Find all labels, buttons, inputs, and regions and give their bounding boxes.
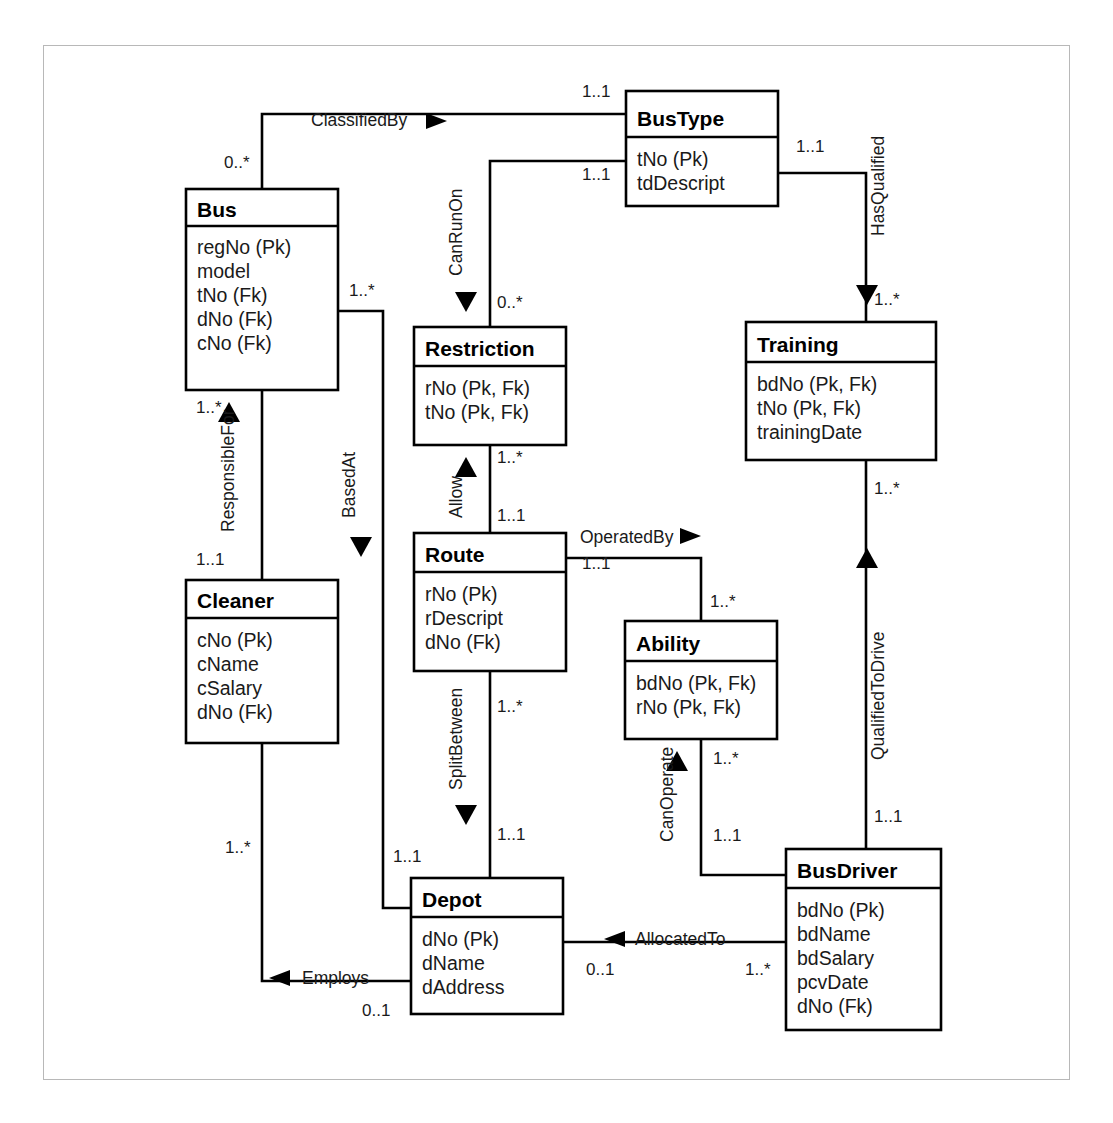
entity-cleaner-title: Cleaner (197, 589, 274, 612)
arrow-qualifiedtodrive (856, 548, 878, 568)
relationship-label-responsiblefor: ResponsibleFor (218, 409, 238, 532)
connector-line-basedat (338, 311, 411, 908)
entity-ability-attr-0: bdNo (Pk, Fk) (636, 672, 756, 694)
entity-bustype-attr-0: tNo (Pk) (637, 148, 709, 170)
multiplicity-label: 1..* (874, 290, 900, 309)
multiplicity-label: 1..* (710, 592, 736, 611)
connector-canrunon (455, 161, 626, 327)
relationship-label-qualifiedtodrive: QualifiedToDrive (868, 632, 888, 760)
multiplicity-label: 1..1 (497, 825, 525, 844)
relationship-label-classifiedby: ClassifiedBy (311, 110, 408, 130)
relationship-label-splitbetween: SplitBetween (446, 688, 466, 790)
entity-restriction-attr-1: tNo (Pk, Fk) (425, 401, 529, 423)
entity-bus-attr-0: regNo (Pk) (197, 236, 291, 258)
entity-route[interactable]: Route rNo (Pk) rDescript dNo (Fk) (414, 533, 566, 671)
connector-hasqualified (778, 173, 878, 322)
entity-bus-attr-3: dNo (Fk) (197, 308, 273, 330)
relationship-label-hasqualified: HasQualified (868, 136, 888, 236)
entity-ability[interactable]: Ability bdNo (Pk, Fk) rNo (Pk, Fk) (625, 621, 777, 739)
entity-training-title: Training (757, 333, 839, 356)
multiplicity-label: 1..1 (582, 554, 610, 573)
entity-bus-attr-4: cNo (Fk) (197, 332, 272, 354)
multiplicity-label: 0..1 (586, 960, 614, 979)
entity-route-attr-1: rDescript (425, 607, 504, 629)
entity-busdriver-attr-2: bdSalary (797, 947, 874, 969)
connector-basedat (338, 311, 411, 908)
multiplicity-label: 1..* (225, 838, 251, 857)
relationship-label-employs: Employs (302, 968, 369, 988)
multiplicity-label: 1..* (196, 398, 222, 417)
multiplicity-label: 0..1 (362, 1001, 390, 1020)
relationship-label-operatedby: OperatedBy (580, 527, 674, 547)
entity-route-attr-2: dNo (Fk) (425, 631, 501, 653)
connector-employs (262, 743, 411, 986)
entity-busdriver-attr-1: bdName (797, 923, 871, 945)
entity-route-title: Route (425, 543, 485, 566)
relationship-label-allocatedto: AllocatedTo (635, 929, 725, 949)
multiplicity-label: 1..* (349, 281, 375, 300)
entity-bus-attr-2: tNo (Fk) (197, 284, 267, 306)
multiplicity-label: 1..1 (497, 506, 525, 525)
connector-line-employs (262, 743, 411, 981)
entity-restriction-attr-0: rNo (Pk, Fk) (425, 377, 530, 399)
entity-busdriver-attr-0: bdNo (Pk) (797, 899, 885, 921)
entity-training-attr-2: trainingDate (757, 421, 862, 443)
entity-busdriver[interactable]: BusDriver bdNo (Pk) bdName bdSalary pcvD… (786, 849, 941, 1030)
entity-cleaner-attr-0: cNo (Pk) (197, 629, 273, 651)
entity-restriction[interactable]: Restriction rNo (Pk, Fk) tNo (Pk, Fk) (414, 327, 566, 445)
entity-ability-title: Ability (636, 632, 700, 655)
entity-busdriver-attr-3: pcvDate (797, 971, 869, 993)
entity-bustype-title: BusType (637, 107, 724, 130)
arrow-allocatedto (604, 931, 625, 947)
entity-cleaner-attr-1: cName (197, 653, 259, 675)
arrow-canrunon (455, 292, 477, 312)
arrow-operatedby (680, 528, 701, 544)
entity-depot-attr-1: dName (422, 952, 485, 974)
entity-bus-attr-1: model (197, 260, 250, 282)
entity-route-attr-0: rNo (Pk) (425, 583, 498, 605)
multiplicity-label: 1..1 (196, 550, 224, 569)
entity-bustype[interactable]: BusType tNo (Pk) tdDescript (626, 91, 778, 206)
entity-cleaner-attr-2: cSalary (197, 677, 262, 699)
entity-busdriver-attr-4: dNo (Fk) (797, 995, 873, 1017)
arrow-allow (455, 457, 477, 477)
multiplicity-label: 1..* (497, 697, 523, 716)
diagram-page: BusType tNo (Pk) tdDescript Bus regNo (P… (0, 0, 1113, 1123)
entity-depot-attr-2: dAddress (422, 976, 505, 998)
entity-ability-attr-1: rNo (Pk, Fk) (636, 696, 741, 718)
entity-training[interactable]: Training bdNo (Pk, Fk) tNo (Pk, Fk) trai… (746, 322, 936, 460)
arrow-classifiedby (426, 113, 447, 129)
entity-bustype-attr-1: tdDescript (637, 172, 725, 194)
entity-cleaner[interactable]: Cleaner cNo (Pk) cName cSalary dNo (Fk) (186, 580, 338, 743)
entity-depot-attr-0: dNo (Pk) (422, 928, 499, 950)
relationship-label-allow: Allow (446, 476, 466, 518)
relationship-label-basedat: BasedAt (339, 452, 359, 518)
multiplicity-label: 0..* (497, 293, 523, 312)
entity-cleaner-attr-3: dNo (Fk) (197, 701, 273, 723)
arrow-basedat (350, 537, 372, 557)
multiplicity-label: 1..1 (874, 807, 902, 826)
entity-depot-title: Depot (422, 888, 482, 911)
connector-line-hasqualified (778, 173, 866, 322)
multiplicity-label: 1..1 (796, 137, 824, 156)
entity-training-attr-1: tNo (Pk, Fk) (757, 397, 861, 419)
relationship-label-canoperate: CanOperate (657, 747, 677, 842)
multiplicity-label: 0..* (224, 153, 250, 172)
multiplicity-label: 1..* (713, 749, 739, 768)
multiplicity-label: 1..* (874, 479, 900, 498)
entity-bus-title: Bus (197, 198, 237, 221)
entity-training-attr-0: bdNo (Pk, Fk) (757, 373, 877, 395)
multiplicity-label: 1..1 (713, 826, 741, 845)
entity-busdriver-title: BusDriver (797, 859, 897, 882)
arrow-splitbetween (455, 805, 477, 825)
multiplicity-label: 1..* (745, 960, 771, 979)
entity-depot[interactable]: Depot dNo (Pk) dName dAddress (411, 878, 563, 1014)
multiplicity-label: 1..1 (582, 82, 610, 101)
multiplicity-label: 1..* (497, 448, 523, 467)
entity-restriction-title: Restriction (425, 337, 535, 360)
er-diagram-canvas: BusType tNo (Pk) tdDescript Bus regNo (P… (0, 0, 1113, 1123)
multiplicity-label: 1..1 (582, 165, 610, 184)
arrow-employs (269, 970, 290, 986)
multiplicity-label: 1..1 (393, 847, 421, 866)
entity-bus[interactable]: Bus regNo (Pk) model tNo (Fk) dNo (Fk) c… (186, 189, 338, 390)
